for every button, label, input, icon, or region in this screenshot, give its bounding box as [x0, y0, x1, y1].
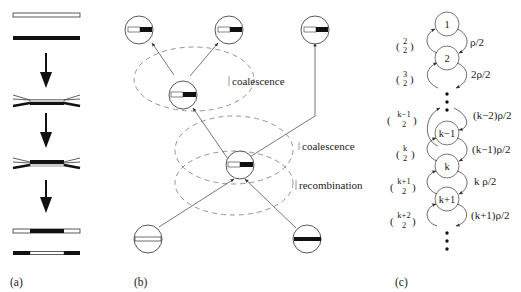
- state-node-2: 2: [435, 46, 459, 70]
- binomial-rate: ( k−1 2 ): [387, 109, 417, 129]
- svg-text:2: 2: [402, 220, 406, 230]
- svg-text:2: 2: [444, 53, 449, 64]
- state-node-1: 1: [435, 12, 459, 36]
- panel-c: 1 2 k−1 k k+1: [387, 12, 512, 289]
- panel-c-label: (c): [395, 276, 408, 289]
- down-arrow-icon: [40, 113, 52, 148]
- svg-text:): ): [412, 181, 416, 194]
- node-coalescence-parent: [169, 81, 197, 109]
- binomial-rate: ( k+2 2 ): [390, 210, 416, 230]
- rate-label: ρ/2: [470, 36, 484, 48]
- svg-text:(: (: [396, 73, 400, 86]
- rate-label: k ρ/2: [474, 175, 496, 187]
- svg-text:): ): [412, 215, 416, 228]
- recombinant-chromosome-2: [13, 251, 80, 255]
- svg-text:k: k: [444, 161, 450, 172]
- crossover-stage: [13, 158, 80, 168]
- rate-label: (k+1)ρ/2: [471, 209, 510, 222]
- rate-label: (k−2)ρ/2: [473, 109, 512, 122]
- pairing-stage: [13, 95, 80, 106]
- node-top-left: [125, 16, 153, 44]
- node-white-parent: [134, 225, 162, 253]
- figure: (a): [0, 0, 521, 292]
- state-node-k-minus-1: k−1: [435, 121, 459, 145]
- svg-text:(: (: [396, 40, 400, 53]
- down-arrow-icon: [40, 53, 52, 88]
- rate-label: (k−1)ρ/2: [472, 143, 511, 156]
- coalescence-label-top: coalescence: [232, 75, 285, 87]
- recombinant-chromosome-1: [13, 229, 80, 233]
- edge: [245, 179, 296, 228]
- state-node-k-plus-1: k+1: [435, 187, 459, 211]
- svg-text:2: 2: [402, 186, 406, 196]
- svg-text:(: (: [387, 114, 391, 127]
- node-recombinant: [226, 151, 254, 179]
- svg-text:1: 1: [444, 19, 449, 30]
- svg-text:(: (: [396, 148, 400, 161]
- svg-text:k−1: k−1: [439, 128, 455, 139]
- binomial-rate: ( 3 2 ): [396, 69, 414, 88]
- recombination-label: recombination: [299, 179, 363, 191]
- svg-text:): ): [411, 148, 415, 161]
- svg-text:): ): [413, 114, 417, 127]
- binomial-rate: ( k 2 ): [396, 143, 415, 163]
- svg-text:): ): [410, 40, 414, 53]
- panel-a-label: (a): [10, 276, 23, 289]
- svg-text:(: (: [390, 215, 394, 228]
- svg-text:2: 2: [403, 45, 407, 55]
- binomial-rate: ( 2 2 ): [396, 36, 414, 55]
- binomial-rate: ( k+1 2 ): [390, 176, 416, 196]
- node-top-middle: [215, 16, 243, 44]
- edge: [152, 43, 174, 75]
- svg-text:(: (: [390, 181, 394, 194]
- edge: [193, 108, 228, 159]
- svg-text:k+1: k+1: [439, 194, 455, 205]
- edge: [159, 179, 234, 227]
- down-arrow-icon: [40, 180, 52, 213]
- svg-text:k: k: [403, 143, 408, 153]
- svg-text:k−1: k−1: [397, 109, 410, 119]
- svg-text:k+2: k+2: [397, 210, 410, 220]
- coalescence-label-mid: coalescence: [302, 140, 355, 152]
- svg-text:): ): [410, 73, 414, 86]
- white-chromosome: [13, 13, 80, 17]
- panel-b-label: (b): [134, 276, 148, 289]
- edge: [190, 43, 218, 76]
- panel-a: (a): [10, 13, 80, 289]
- svg-text:k+1: k+1: [397, 176, 410, 186]
- svg-text:2: 2: [403, 153, 407, 163]
- node-top-right: [301, 16, 329, 44]
- black-chromosome: [13, 36, 80, 40]
- panel-b: coalescence coalescence recombination (b…: [125, 16, 363, 289]
- svg-text:2: 2: [402, 119, 406, 129]
- svg-text:2: 2: [403, 78, 407, 88]
- state-node-k: k: [435, 154, 459, 178]
- rate-label: 2ρ/2: [471, 68, 491, 80]
- node-black-parent: [293, 225, 321, 253]
